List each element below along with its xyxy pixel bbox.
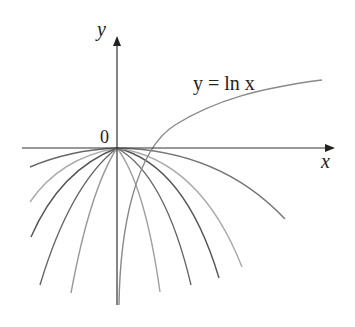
- origin-label: 0: [100, 128, 109, 146]
- figure-canvas: [0, 0, 355, 327]
- y-axis-label: y: [97, 19, 106, 39]
- curve-left-5: [71, 148, 117, 293]
- curve-right-1: [117, 148, 160, 292]
- ln-curve: [119, 80, 322, 305]
- curve-right-4: [117, 148, 242, 267]
- ln-curve-label: y = ln x: [193, 73, 255, 93]
- x-axis-label: x: [321, 151, 330, 171]
